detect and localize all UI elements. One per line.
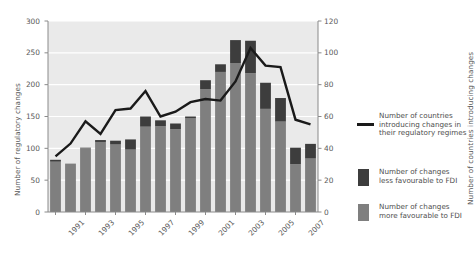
bar-group — [110, 141, 121, 212]
y-tick-left: 200 — [14, 80, 40, 89]
y-tick-right: 120 — [324, 17, 350, 26]
bar-group — [155, 120, 166, 212]
y-tick-left: 100 — [14, 144, 40, 153]
legend-label: Number of changes less favourable to FDI — [379, 168, 457, 185]
legend-marker-line — [357, 123, 374, 126]
legend-marker-swatch — [358, 204, 369, 221]
y-tick-right: 80 — [324, 80, 350, 89]
y-tick-right: 20 — [324, 176, 350, 185]
bar-group — [230, 40, 241, 212]
y-tick-left: 0 — [14, 208, 40, 217]
bar-group — [290, 148, 301, 212]
bar-group — [245, 41, 256, 212]
bar-group — [215, 64, 226, 212]
y-tick-left: 150 — [14, 112, 40, 121]
y-tick-right: 60 — [324, 112, 350, 121]
y-tick-right: 100 — [324, 48, 350, 57]
bar-group — [50, 160, 61, 212]
bar-group — [140, 117, 151, 213]
y-tick-right: 40 — [324, 144, 350, 153]
legend-marker-swatch — [358, 169, 369, 186]
bar-group — [125, 139, 136, 212]
bar-group — [185, 117, 196, 213]
y-tick-left: 50 — [14, 176, 40, 185]
bar-group — [170, 124, 181, 212]
bar-group — [95, 140, 106, 212]
legend-label: Number of countries introducing changes … — [379, 112, 466, 138]
y-tick-left: 250 — [14, 48, 40, 57]
y-tick-right: 0 — [324, 208, 350, 217]
legend-label: Number of changes more favourable to FDI — [379, 203, 462, 220]
bar-group — [275, 98, 286, 212]
bar-group — [65, 164, 76, 212]
y-tick-left: 300 — [14, 17, 40, 26]
bar-group — [260, 83, 271, 212]
bar-group — [80, 148, 91, 212]
bar-group — [305, 144, 316, 212]
